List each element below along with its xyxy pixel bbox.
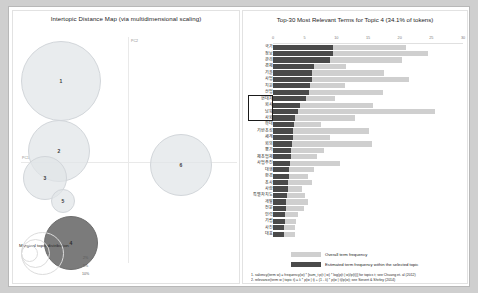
term-label[interactable]: 특별자치도 bbox=[247, 192, 273, 198]
bar-topic-frequency bbox=[273, 167, 289, 172]
term-bar-row[interactable]: 사업 bbox=[243, 76, 469, 82]
term-bar-row[interactable]: 기반조성 bbox=[243, 128, 469, 134]
intertopic-distance-map-panel: Intertopic Distance Map (via multidimens… bbox=[12, 10, 240, 284]
term-bar-row[interactable]: 현대차 bbox=[243, 96, 469, 102]
legend-label-within: Estimated term frequency within the sele… bbox=[325, 262, 418, 267]
bar-topic-frequency bbox=[273, 70, 312, 75]
term-label[interactable]: 확대 bbox=[247, 121, 273, 127]
term-bar-row[interactable]: 국가 bbox=[243, 44, 469, 50]
bar-topic-frequency bbox=[273, 109, 298, 114]
term-label[interactable]: 사회 bbox=[247, 115, 273, 121]
marginal-topic-distribution-legend: Marginal topic distribution 2% 5% 10% bbox=[19, 201, 139, 277]
term-bar-row[interactable]: 남북 bbox=[243, 109, 469, 115]
term-bar-row[interactable]: 기술 bbox=[243, 70, 469, 76]
bar-topic-frequency bbox=[273, 103, 300, 108]
topic-bubble-label: 3 bbox=[44, 175, 47, 181]
term-bar-row[interactable]: 경제 bbox=[243, 63, 469, 69]
term-bar-row[interactable]: 사진 bbox=[243, 225, 469, 231]
topic-bubble-label: 2 bbox=[58, 148, 61, 154]
term-bar-row[interactable]: 개발 bbox=[243, 199, 469, 205]
term-label[interactable]: 현대차 bbox=[247, 96, 273, 102]
bar-topic-frequency bbox=[273, 174, 289, 179]
bar-topic-frequency bbox=[273, 219, 285, 224]
term-bar-row[interactable]: 사람 bbox=[243, 186, 469, 192]
topic-bubble-label: 6 bbox=[180, 162, 183, 168]
term-label[interactable]: 경제 bbox=[247, 63, 273, 69]
term-label[interactable]: 남북 bbox=[247, 109, 273, 115]
term-label[interactable]: 환경 bbox=[247, 173, 273, 179]
term-bar-row[interactable]: 확대 bbox=[243, 121, 469, 127]
bar-topic-frequency bbox=[273, 135, 293, 140]
bar-topic-frequency bbox=[273, 64, 314, 69]
marginal-tick-5pct: 5% bbox=[83, 264, 88, 268]
term-bar-row[interactable]: 지원 bbox=[243, 83, 469, 89]
term-label[interactable]: 전문 bbox=[247, 205, 273, 211]
term-label[interactable]: 개발 bbox=[247, 199, 273, 205]
term-label[interactable]: 기반조성 bbox=[247, 128, 273, 134]
topic-bubble-label: 1 bbox=[60, 78, 63, 84]
term-bar-row[interactable]: 사업추진 bbox=[243, 160, 469, 166]
term-label[interactable]: 사업 bbox=[247, 76, 273, 82]
term-label[interactable]: 관리 bbox=[247, 57, 273, 63]
term-bar-row[interactable]: 정보 bbox=[243, 50, 469, 56]
axis-label-pc2: PC2 bbox=[131, 39, 138, 43]
bar-topic-frequency bbox=[273, 186, 288, 191]
term-bar-row[interactable]: 평가 bbox=[243, 147, 469, 153]
bar-topic-frequency bbox=[273, 141, 292, 146]
bar-topic-frequency bbox=[273, 77, 312, 82]
marginal-tick-2pct: 2% bbox=[83, 256, 88, 260]
term-label[interactable]: 평가 bbox=[247, 147, 273, 153]
bar-topic-frequency bbox=[273, 193, 287, 198]
term-label[interactable]: 사람 bbox=[247, 186, 273, 192]
term-label[interactable]: 산업 bbox=[247, 89, 273, 95]
marginal-ring-10pct bbox=[21, 232, 64, 275]
x-tick-15: 15 bbox=[366, 36, 370, 40]
term-bar-row[interactable]: 회의 bbox=[243, 141, 469, 147]
term-bar-row[interactable]: 세계 bbox=[243, 134, 469, 140]
term-label[interactable]: 사진 bbox=[247, 225, 273, 231]
term-label[interactable]: 인력 bbox=[247, 212, 273, 218]
term-label[interactable]: 조사 bbox=[247, 180, 273, 186]
term-bar-row[interactable]: 회사 bbox=[243, 102, 469, 108]
term-label[interactable]: 정보 bbox=[247, 51, 273, 57]
term-label[interactable]: 기술 bbox=[247, 70, 273, 76]
topic-bubble-6[interactable]: 6 bbox=[150, 134, 212, 196]
bar-topic-frequency bbox=[273, 225, 284, 230]
intertopic-map-title: Intertopic Distance Map (via multidimens… bbox=[13, 15, 239, 22]
x-tick-20: 20 bbox=[398, 36, 402, 40]
legend-label-overall: Overall term frequency bbox=[325, 252, 367, 257]
bar-topic-frequency bbox=[273, 90, 309, 95]
term-label[interactable]: 대행 bbox=[247, 167, 273, 173]
term-bar-row[interactable]: 산업 bbox=[243, 89, 469, 95]
term-label[interactable]: 회의 bbox=[247, 141, 273, 147]
term-bar-row[interactable]: 기립 bbox=[243, 218, 469, 224]
term-bar-row[interactable]: 관리 bbox=[243, 57, 469, 63]
term-label[interactable]: 기립 bbox=[247, 218, 273, 224]
bar-topic-frequency bbox=[273, 45, 333, 50]
bar-topic-frequency bbox=[273, 232, 284, 237]
term-bar-row[interactable]: 제조업체 bbox=[243, 154, 469, 160]
term-label[interactable]: 제조업체 bbox=[247, 154, 273, 160]
bar-topic-frequency bbox=[273, 115, 295, 120]
term-bar-row[interactable]: 환경 bbox=[243, 173, 469, 179]
term-bar-row[interactable]: 특별자치도 bbox=[243, 192, 469, 198]
bar-topic-frequency bbox=[273, 51, 333, 56]
term-bar-row[interactable]: 인력 bbox=[243, 212, 469, 218]
term-bar-row[interactable]: 대표 bbox=[243, 231, 469, 237]
term-label[interactable]: 지원 bbox=[247, 83, 273, 89]
x-tick-25: 25 bbox=[429, 36, 433, 40]
term-bar-row[interactable]: 조사 bbox=[243, 179, 469, 185]
term-label[interactable]: 대표 bbox=[247, 231, 273, 237]
x-tick-30: 30 bbox=[461, 36, 465, 40]
term-label[interactable]: 국가 bbox=[247, 44, 273, 50]
bar-topic-frequency bbox=[273, 83, 310, 88]
term-label[interactable]: 회사 bbox=[247, 102, 273, 108]
term-bar-row[interactable]: 대행 bbox=[243, 167, 469, 173]
barchart-title: Top-30 Most Relevant Terms for Topic 4 (… bbox=[243, 16, 467, 23]
term-bar-row[interactable]: 전문 bbox=[243, 205, 469, 211]
term-bar-row[interactable]: 사회 bbox=[243, 115, 469, 121]
term-label[interactable]: 사업추진 bbox=[247, 160, 273, 166]
bar-topic-frequency bbox=[273, 199, 286, 204]
term-label[interactable]: 세계 bbox=[247, 134, 273, 140]
topic-bubble-1[interactable]: 1 bbox=[21, 41, 101, 121]
